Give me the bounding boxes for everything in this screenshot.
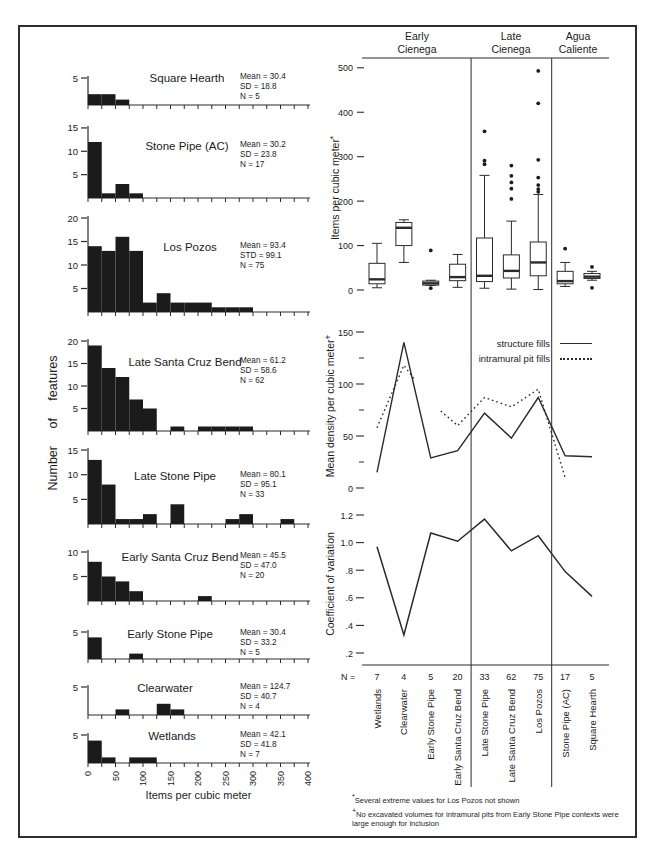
y-tick-label: 20 xyxy=(67,213,78,224)
histogram-wetlands: 5WetlandsMean = 42.1SD = 41.8N = 7 xyxy=(73,730,310,768)
n-row-label: N = xyxy=(341,672,355,682)
panel-stat: N = 20 xyxy=(240,571,265,580)
panel-stat: SD = 33.2 xyxy=(240,638,277,647)
histogram-bar xyxy=(143,514,157,524)
box-clearwater xyxy=(396,220,412,263)
y-tick-label: 5 xyxy=(73,730,78,741)
y-tick-label: .8 xyxy=(345,566,353,576)
panel-title: Late Stone Pipe xyxy=(134,470,216,482)
histogram-bar xyxy=(226,519,240,524)
histogram-bar xyxy=(102,757,116,763)
box-square-hearth xyxy=(584,265,600,290)
box xyxy=(503,255,519,278)
panel-stat: N = 33 xyxy=(240,490,265,499)
group-header-line: Late xyxy=(501,30,521,42)
y-tick-label: 10 xyxy=(67,146,78,157)
box xyxy=(369,263,385,283)
n-value: 75 xyxy=(533,672,543,682)
panel-stat: Mean = 93.4 xyxy=(240,241,286,250)
y-tick-label: 5 xyxy=(73,283,78,294)
histogram-bar xyxy=(212,427,226,432)
box-late-santa-cruz-bend xyxy=(503,164,519,289)
n-value: 7 xyxy=(374,672,379,682)
x-tick-label: 400 xyxy=(303,771,313,786)
y-tick-label: .4 xyxy=(345,621,353,631)
category-label-clearwater: Clearwater xyxy=(398,689,409,735)
left-histograms: 5Square HearthMean = 30.4SD = 18.8N = 55… xyxy=(46,72,313,786)
histogram-bar xyxy=(198,427,212,432)
y-tick-label: 0 xyxy=(348,286,353,296)
histogram-bar xyxy=(171,427,185,432)
histogram-bar xyxy=(102,577,116,602)
panel-stat: SD = 18.8 xyxy=(240,82,277,91)
category-label-stone-pipe-ac-: Stone Pipe (AC) xyxy=(560,689,571,758)
histogram-bar xyxy=(129,757,143,763)
footnote-extreme-values: *Several extreme values for Los Pozos no… xyxy=(352,792,634,805)
n-value: 5 xyxy=(428,672,433,682)
outlier-dot xyxy=(536,101,540,105)
outlier-dot xyxy=(509,181,513,185)
outlier-dot xyxy=(536,183,540,187)
histogram-bar xyxy=(102,368,116,431)
category-label-late-santa-cruz-bend: Late Santa Cruz Bend xyxy=(506,689,517,782)
panel-title: Early Santa Cruz Bend xyxy=(122,551,239,563)
panel-stat: Mean = 42.1 xyxy=(240,730,286,739)
outlier-dot xyxy=(536,158,540,162)
histogram-bar xyxy=(88,637,102,659)
histogram-early-stone-pipe: 5Early Stone PipeMean = 30.4SD = 33.2N =… xyxy=(73,627,310,664)
panel-stat: SD = 47.0 xyxy=(240,561,277,570)
y-tick-label: 15 xyxy=(67,236,78,247)
legend-item-intramural-pit-fills: intramural pit fills xyxy=(400,351,592,366)
intramural-pit-fills-line xyxy=(441,389,565,477)
y-tick-label: 150 xyxy=(338,328,353,338)
box-los-pozos xyxy=(530,69,546,290)
histogram-bar xyxy=(239,514,253,524)
n-value: 4 xyxy=(401,672,406,682)
outlier-dot xyxy=(509,187,513,191)
n-value: 62 xyxy=(506,672,516,682)
histogram-bar xyxy=(102,94,116,105)
y-tick-label: 15 xyxy=(67,445,78,456)
histogram-bar xyxy=(88,246,102,312)
outlier-dot xyxy=(590,265,594,269)
histogram-bar xyxy=(226,427,240,432)
n-value: 17 xyxy=(560,672,570,682)
histogram-bar xyxy=(157,293,171,312)
box-wetlands xyxy=(369,243,385,287)
histogram-bar xyxy=(88,142,102,198)
histogram-bar xyxy=(116,100,130,105)
box xyxy=(396,222,412,245)
items-boxplot: 0100200300400500Items per cubic meter* xyxy=(329,63,600,295)
category-label-early-santa-cruz-bend: Early Santa Cruz Bend xyxy=(452,689,463,786)
group-header-agua-caliente: Agua Caliente xyxy=(538,30,618,55)
category-label-wetlands: Wetlands xyxy=(372,689,383,729)
n-value: 20 xyxy=(453,672,463,682)
histogram-stone-pipe-ac: 51015Stone Pipe (AC)Mean = 30.2SD = 23.8… xyxy=(67,122,310,202)
category-labels: WetlandsClearwaterEarly Stone PipeEarly … xyxy=(372,689,598,786)
y-tick-label: 15 xyxy=(67,358,78,369)
y-tick-label: 5 xyxy=(73,169,78,180)
histogram-bar xyxy=(171,303,185,312)
histogram-bar xyxy=(102,485,116,524)
footnote-no-volumes: +No excavated volumes for intramural pit… xyxy=(352,806,636,829)
histogram-bar xyxy=(116,709,130,715)
histogram-bar xyxy=(88,741,102,763)
category-label-early-stone-pipe: Early Stone Pipe xyxy=(425,689,436,760)
histogram-bar xyxy=(239,307,253,312)
outlier-dot xyxy=(509,174,513,178)
panel-title: Stone Pipe (AC) xyxy=(145,140,228,152)
group-header-line: Early xyxy=(405,30,429,42)
boxplot-y-axis-title: Items per cubic meter* xyxy=(329,135,341,240)
y-tick-label: .6 xyxy=(345,593,353,603)
group-header-line: Cienega xyxy=(491,43,530,55)
y-tick-label: 5 xyxy=(73,571,78,582)
x-tick-label: 350 xyxy=(276,771,286,786)
box-early-santa-cruz-bend xyxy=(450,254,466,287)
outlier-dot xyxy=(483,162,487,166)
cv-line xyxy=(377,519,592,635)
panel-title: Early Stone Pipe xyxy=(127,628,213,640)
histogram-bar xyxy=(116,377,130,431)
panel-title: Wetlands xyxy=(148,730,196,742)
category-label-late-stone-pipe: Late Stone Pipe xyxy=(479,689,490,757)
histogram-bar xyxy=(88,346,102,432)
